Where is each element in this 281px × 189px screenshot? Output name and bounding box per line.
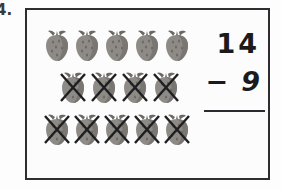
strawberry-icon bbox=[104, 112, 130, 148]
strawberry-icon bbox=[74, 28, 100, 64]
strawberry-icon bbox=[122, 70, 148, 106]
strawberry-icon bbox=[44, 28, 70, 64]
berry-row bbox=[44, 112, 190, 148]
strawberry-icon bbox=[153, 70, 179, 106]
strawberry-picture-model bbox=[27, 10, 199, 178]
strawberry-icon bbox=[60, 70, 86, 106]
strawberry-icon bbox=[91, 70, 117, 106]
exercise-box: 14 − 9 bbox=[25, 8, 270, 180]
berry-row bbox=[44, 28, 190, 64]
strawberry-icon bbox=[74, 112, 100, 148]
minus-operator: − bbox=[206, 68, 229, 95]
strawberry-icon bbox=[164, 112, 190, 148]
subtrahend-value: 9 bbox=[241, 68, 260, 95]
strawberry-icon bbox=[134, 112, 160, 148]
strawberry-icon bbox=[164, 28, 190, 64]
berry-row bbox=[60, 70, 179, 106]
strawberry-icon bbox=[134, 28, 160, 64]
subtraction-problem: 14 − 9 bbox=[195, 24, 268, 119]
strawberry-icon bbox=[104, 28, 130, 64]
worksheet-page: 4. bbox=[0, 0, 281, 189]
answer-line bbox=[204, 110, 265, 112]
subtrahend-row: − 9 bbox=[206, 68, 260, 95]
problem-number-label: 4. bbox=[0, 1, 12, 19]
minuend-value: 14 bbox=[216, 30, 260, 57]
strawberry-icon bbox=[44, 112, 70, 148]
